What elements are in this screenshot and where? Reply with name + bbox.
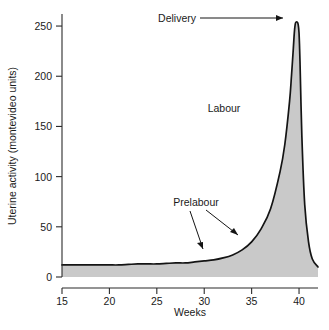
x-tick-label: 15 xyxy=(56,295,68,307)
x-tick-label: 20 xyxy=(104,295,116,307)
x-tick-label: 40 xyxy=(293,295,305,307)
uterine-activity-chart: 050100150200250 152025303540 Uterine act… xyxy=(0,0,329,330)
y-tick-label: 50 xyxy=(40,221,52,233)
x-axis-title: Weeks xyxy=(174,306,206,318)
chart-figure: 050100150200250 152025303540 Uterine act… xyxy=(0,0,329,330)
y-tick-label: 200 xyxy=(34,70,52,82)
annotation-labour-label: Labour xyxy=(208,102,241,114)
annotation-prelabour-label: Prelabour xyxy=(173,196,219,208)
y-tick-label: 250 xyxy=(34,20,52,32)
y-tick-label: 150 xyxy=(34,120,52,132)
y-tick-label: 100 xyxy=(34,171,52,183)
x-axis-ticks: 152025303540 xyxy=(56,288,305,307)
x-tick-label: 35 xyxy=(246,295,258,307)
y-axis-ticks: 050100150200250 xyxy=(34,20,62,283)
y-axis-title: Uterine activity (montevideo units) xyxy=(6,67,18,225)
x-tick-label: 25 xyxy=(151,295,163,307)
annotation-delivery-label: Delivery xyxy=(158,12,197,24)
y-tick-label: 0 xyxy=(46,271,52,283)
